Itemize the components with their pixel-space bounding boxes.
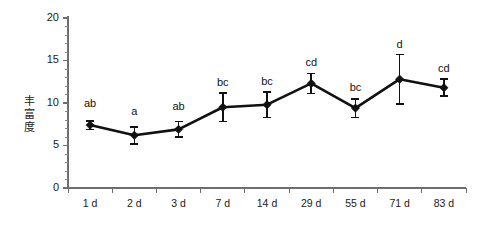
- y-tick-label: 0: [53, 181, 59, 193]
- significance-label: a: [131, 105, 138, 117]
- chart-background: [0, 0, 491, 230]
- x-tick-label: 29 d: [301, 197, 322, 209]
- significance-label: cd: [438, 62, 450, 74]
- significance-label: ab: [172, 100, 184, 112]
- y-tick-label: 10: [47, 96, 59, 108]
- x-tick-label: 83 d: [434, 197, 455, 209]
- significance-label: bc: [217, 76, 229, 88]
- y-tick-label: 15: [47, 53, 59, 65]
- significance-label: cd: [305, 56, 317, 68]
- abundance-line-chart: 05101520 1 d2 d3 d7 d14 d29 d55 d71 d83 …: [0, 0, 491, 230]
- y-tick-label: 20: [47, 11, 59, 23]
- x-tick-label: 14 d: [257, 197, 278, 209]
- significance-label: ab: [84, 97, 96, 109]
- x-tick-label: 2 d: [127, 197, 142, 209]
- x-tick-label: 55 d: [345, 197, 366, 209]
- significance-label: d: [397, 38, 403, 50]
- y-tick-label: 5: [53, 138, 59, 150]
- chart-container: 05101520 1 d2 d3 d7 d14 d29 d55 d71 d83 …: [0, 0, 491, 230]
- significance-label: bc: [261, 75, 273, 87]
- x-tick-label: 1 d: [83, 197, 98, 209]
- x-tick-label: 3 d: [171, 197, 186, 209]
- y-axis-title-char-2: 度: [24, 120, 35, 134]
- y-axis-title-char-1: 富: [24, 107, 35, 121]
- y-axis-title-char-0: 丰: [24, 95, 35, 108]
- x-tick-label: 71 d: [389, 197, 410, 209]
- significance-label: bc: [350, 81, 362, 93]
- x-tick-label: 7 d: [215, 197, 230, 209]
